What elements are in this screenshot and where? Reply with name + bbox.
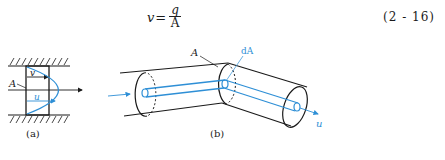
fig-b-velocity-label: u	[316, 118, 322, 129]
fig-a-area-label: A	[8, 78, 16, 89]
fig-b-area-label: A	[190, 47, 198, 58]
fig-a-point-velocity-label: u	[34, 92, 40, 102]
fig-a-mean-velocity-label: v	[30, 68, 35, 78]
fig-a-caption: (a)	[26, 128, 40, 139]
top-wall-hatching	[10, 58, 68, 65]
fig-b-caption: (b)	[210, 128, 224, 139]
figure-a-pipe-section	[8, 58, 82, 123]
bottom-wall-hatching	[10, 116, 68, 123]
fig-b-element-area-label: dA	[241, 46, 254, 56]
figure-b-bent-pipe	[108, 56, 318, 130]
figure-svg: A v u (a) A dA u (b)	[0, 0, 445, 160]
